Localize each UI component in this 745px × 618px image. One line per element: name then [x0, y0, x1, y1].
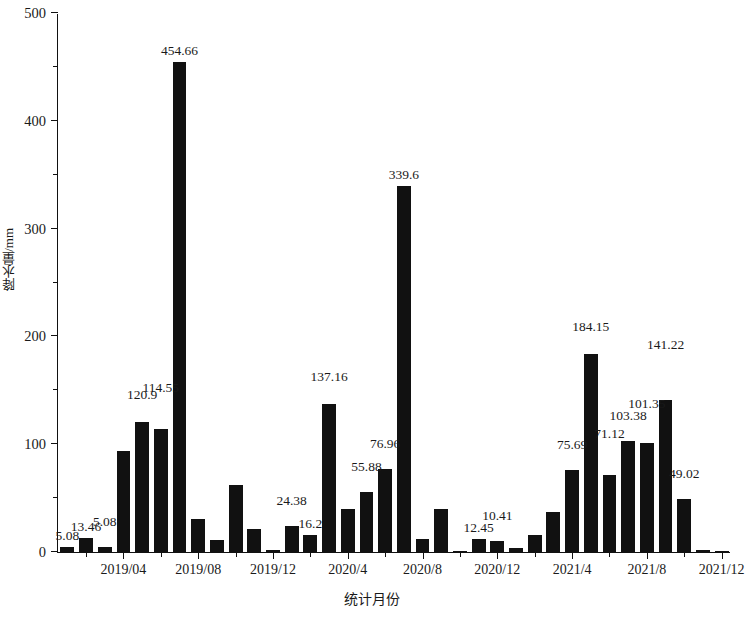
bar-value-label: 76.96: [370, 436, 400, 452]
bar: [285, 526, 299, 552]
x-axis-tick: [423, 552, 424, 559]
bar: [378, 469, 392, 552]
bar: [677, 499, 691, 552]
bar-value-label: 114.55: [143, 380, 180, 396]
bar: [397, 186, 411, 552]
bar-value-label: 16.2: [299, 516, 323, 532]
x-axis-minor-tick: [86, 552, 87, 557]
x-axis-tick: [647, 552, 648, 559]
bar-value-label: 141.22: [647, 337, 684, 353]
x-axis-tick: [348, 552, 349, 559]
bar: [229, 485, 243, 552]
y-axis-tick-label: 0: [39, 544, 46, 561]
bar-value-label: 5.08: [93, 514, 117, 530]
x-axis-title-text: 统计月份: [344, 588, 400, 608]
x-axis-minor-tick: [535, 552, 536, 557]
bar: [60, 547, 74, 552]
bar-value-label: 75.69: [557, 437, 587, 453]
bar: [603, 475, 617, 552]
x-axis-tick-label: 2021/12: [699, 562, 745, 578]
y-axis-tick: 300: [51, 228, 58, 229]
x-axis-minor-tick: [310, 552, 311, 557]
x-axis-tick: [123, 552, 124, 559]
bar: [322, 404, 336, 552]
y-axis-tick-label: 400: [24, 112, 46, 129]
bar: [565, 470, 579, 552]
bar: [210, 540, 224, 552]
x-axis-minor-tick: [460, 552, 461, 557]
bar: [640, 443, 654, 552]
x-axis-tick: [273, 552, 274, 559]
bar: [247, 529, 261, 552]
x-axis-tick: [572, 552, 573, 559]
y-axis-tick-label: 300: [24, 220, 46, 237]
x-axis-tick-label: 2020/8: [403, 562, 442, 578]
x-axis-tick-label: 2021/8: [627, 562, 666, 578]
x-axis-tick: [722, 552, 723, 559]
bar-value-label: 339.6: [389, 167, 419, 183]
y-axis-minor-tick: [53, 497, 58, 498]
x-axis-tick-label: 2020/4: [328, 562, 367, 578]
bar-value-label: 184.15: [572, 319, 609, 335]
bar: [79, 538, 93, 553]
y-axis-tick-label: 200: [24, 328, 46, 345]
bar: [191, 519, 205, 552]
bar-value-label: 137.16: [311, 369, 348, 385]
y-axis-minor-tick: [53, 282, 58, 283]
x-axis-minor-tick: [684, 552, 685, 557]
bar: [509, 548, 523, 552]
bar-value-label: 49.02: [669, 466, 699, 482]
x-axis-tick-label: 2019/12: [250, 562, 296, 578]
bar: [173, 62, 187, 552]
y-axis-title: 降水量/mm: [2, 228, 20, 291]
y-axis-tick: 500: [51, 12, 58, 13]
x-axis-tick-label: 2021/4: [553, 562, 592, 578]
bar: [472, 539, 486, 552]
bar: [546, 512, 560, 552]
x-axis-minor-tick: [385, 552, 386, 557]
bar: [621, 441, 635, 552]
bar: [135, 422, 149, 552]
bar: [117, 451, 131, 552]
bar: [98, 547, 112, 552]
bar: [434, 509, 448, 552]
x-axis-minor-tick: [609, 552, 610, 557]
bar: [303, 535, 317, 552]
y-axis-tick-label: 500: [24, 5, 46, 22]
x-axis-minor-tick: [161, 552, 162, 557]
bar: [360, 492, 374, 552]
y-axis-tick: 400: [51, 120, 58, 121]
x-axis-tick-label: 2020/12: [474, 562, 520, 578]
bar: [154, 429, 168, 552]
bar: [528, 535, 542, 552]
bar: [696, 550, 710, 552]
bar: [416, 539, 430, 552]
y-axis-tick: 100: [51, 443, 58, 444]
bar-value-label: 10.41: [482, 508, 512, 524]
y-axis-minor-tick: [53, 174, 58, 175]
bar: [490, 541, 504, 552]
y-axis-minor-tick: [53, 389, 58, 390]
x-axis-title: 统计月份: [0, 588, 732, 608]
bar-value-label: 24.38: [276, 493, 306, 509]
y-axis-tick-label: 100: [24, 436, 46, 453]
bar-value-label: 55.88: [351, 459, 381, 475]
y-axis-minor-tick: [53, 66, 58, 67]
bar-value-label: 71.12: [594, 426, 624, 442]
x-axis-tick: [198, 552, 199, 559]
plot-area: 01002003004005002019/042019/082019/12202…: [57, 14, 730, 553]
x-axis-minor-tick: [236, 552, 237, 557]
x-axis-tick: [497, 552, 498, 559]
x-axis-tick-label: 2019/04: [100, 562, 146, 578]
bar: [341, 509, 355, 552]
y-axis-tick: 0: [51, 551, 58, 552]
bar-value-label: 101.35: [628, 396, 665, 412]
bar-value-label: 454.66: [161, 43, 198, 59]
y-axis-tick: 200: [51, 335, 58, 336]
x-axis-tick-label: 2019/08: [175, 562, 221, 578]
